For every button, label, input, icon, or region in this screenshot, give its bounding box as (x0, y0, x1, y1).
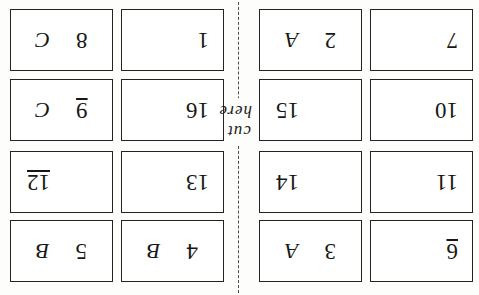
flashcard: 6 (370, 220, 473, 282)
flashcard-number: 2 (324, 29, 336, 52)
flashcard: 15 (259, 79, 362, 141)
flashcard-letter: C (35, 99, 50, 121)
flashcard-letter: A (285, 240, 298, 262)
flashcard-number: 5 (75, 240, 87, 263)
flashcard: 4B (121, 220, 224, 282)
flashcard: 16 (121, 79, 224, 141)
flashcard-number: 15 (276, 99, 299, 122)
flashcard-number: 7 (447, 29, 459, 52)
flashcard-letter: C (35, 29, 50, 51)
flashcard-content: 11 (371, 171, 472, 194)
flashcard-content: 12 (11, 171, 112, 194)
flashcard-content: 8C (11, 29, 112, 52)
flashcard-number: 11 (436, 171, 458, 194)
flashcard-content: 5B (11, 240, 112, 263)
scanned-page: y p p g 8C12A79C161510121314115B4B3A6 cu… (0, 0, 479, 295)
flashcard-number: 6 (447, 240, 459, 263)
flashcard: 11 (370, 151, 473, 213)
flashcard-content: 2A (260, 29, 361, 52)
flashcard-content: 3A (260, 240, 361, 263)
flashcard-letter: B (147, 240, 160, 262)
flashcard-content: 14 (260, 171, 361, 194)
flashcard: 3A (259, 220, 362, 282)
flashcard-number: 9 (76, 99, 88, 122)
flashcard: 2A (259, 9, 362, 71)
flashcard-content: 10 (371, 99, 472, 122)
cut-here-label: cut here (226, 98, 252, 145)
flashcard-content: 4B (122, 240, 223, 263)
flashcard: 12 (10, 151, 113, 213)
flashcard: 13 (121, 151, 224, 213)
flashcard-number: 14 (276, 171, 299, 194)
flashcard: 7 (370, 9, 473, 71)
flashcard-content: 16 (122, 99, 223, 122)
flashcard-grid: 8C12A79C161510121314115B4B3A6 (0, 0, 479, 295)
flashcard-number: 4 (186, 240, 198, 263)
flashcard: 8C (10, 9, 113, 71)
flashcard-letter: B (36, 240, 49, 262)
flashcard-number: 10 (435, 99, 458, 122)
flashcard-number: 3 (324, 240, 336, 263)
flashcard-content: 6 (371, 240, 472, 263)
flashcard-number: 12 (27, 171, 50, 194)
flashcard: 14 (259, 151, 362, 213)
flashcard-content: 7 (371, 29, 472, 52)
flashcard: 1 (121, 9, 224, 71)
flashcard-content: 13 (122, 171, 223, 194)
flashcard: 10 (370, 79, 473, 141)
flashcard-content: 1 (122, 29, 223, 52)
flashcard-number: 13 (186, 171, 209, 194)
flashcard-number: 8 (76, 29, 88, 52)
flashcard-number: 1 (198, 29, 210, 52)
flashcard-letter: A (285, 29, 298, 51)
flashcard-content: 15 (260, 99, 361, 122)
flashcard-content: 9C (11, 99, 112, 122)
flashcard: 9C (10, 79, 113, 141)
cut-line-dashed (238, 2, 239, 293)
flashcard: 5B (10, 220, 113, 282)
flashcard-number: 16 (186, 99, 209, 122)
